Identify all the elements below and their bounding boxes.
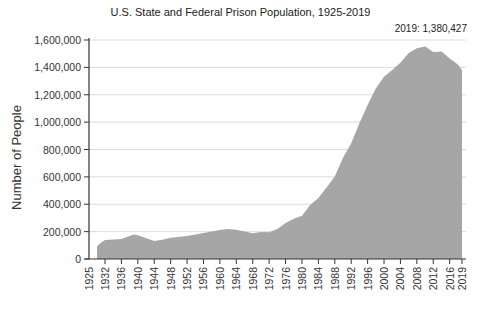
x-tick-label: 1968 — [247, 267, 259, 291]
x-tick-label: 1972 — [263, 267, 275, 291]
y-axis-ticks: 0200,000400,000600,000800,0001,000,0001,… — [34, 34, 89, 265]
prison-population-area — [97, 47, 462, 260]
y-tick-label: 400,000 — [43, 198, 81, 210]
x-tick-label: 2000 — [378, 267, 390, 291]
x-tick-label: 2019 — [456, 267, 468, 291]
y-tick-label: 1,000,000 — [34, 116, 81, 128]
x-tick-label: 2012 — [427, 267, 439, 291]
x-tick-label: 1976 — [280, 267, 292, 291]
x-tick-label: 1940 — [132, 267, 144, 291]
area-chart: 0200,000400,000600,000800,0001,000,0001,… — [0, 0, 481, 309]
x-tick-label: 1960 — [214, 267, 226, 291]
x-tick-label: 2008 — [411, 267, 423, 291]
x-tick-label: 1936 — [115, 267, 127, 291]
x-tick-label: 2004 — [394, 267, 406, 291]
x-tick-label: 2016 — [444, 267, 456, 291]
y-tick-label: 1,600,000 — [34, 34, 81, 46]
x-axis-ticks: 1925193219361940194419481952195619601964… — [83, 259, 468, 290]
x-tick-label: 1964 — [230, 267, 242, 291]
x-tick-label: 1992 — [345, 267, 357, 291]
x-tick-label: 1925 — [83, 267, 95, 291]
x-tick-label: 1948 — [165, 267, 177, 291]
y-tick-label: 200,000 — [43, 226, 81, 238]
x-tick-label: 1956 — [197, 267, 209, 291]
x-tick-label: 1952 — [181, 267, 193, 291]
y-tick-label: 600,000 — [43, 171, 81, 183]
x-tick-label: 1980 — [296, 267, 308, 291]
y-tick-label: 0 — [75, 253, 81, 265]
y-tick-label: 1,200,000 — [34, 89, 81, 101]
y-tick-label: 1,400,000 — [34, 61, 81, 73]
y-tick-label: 800,000 — [43, 144, 81, 156]
x-tick-label: 1984 — [312, 267, 324, 291]
x-tick-label: 1988 — [329, 267, 341, 291]
x-tick-label: 1944 — [148, 267, 160, 291]
x-tick-label: 1932 — [99, 267, 111, 291]
x-tick-label: 1996 — [362, 267, 374, 291]
